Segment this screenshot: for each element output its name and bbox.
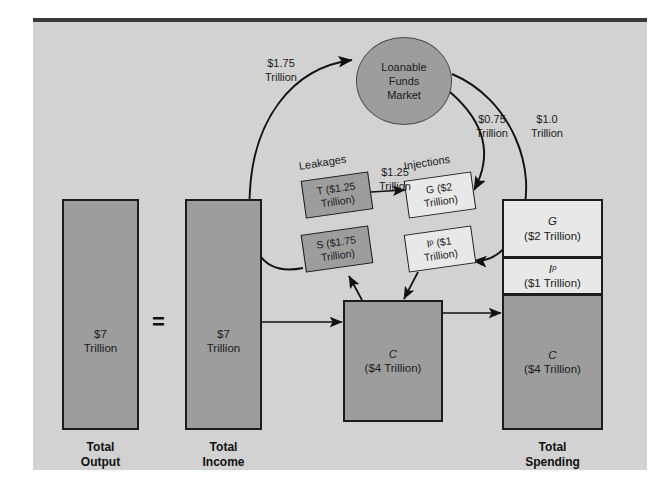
box-savings-label: S ($1.75 Trillion)	[316, 234, 359, 264]
label-taxes-to-government: $1.25 Trillion	[367, 166, 423, 194]
bar-spending-investment[interactable]: Iᵖ ($1 Trillion)	[502, 257, 603, 295]
total-output-caption-line1: Total	[62, 440, 139, 455]
arrow-investment-to-consumption	[404, 272, 418, 299]
total-income-caption-line1: Total	[185, 440, 262, 455]
lfm-inv-flow-line1: $1.0	[521, 113, 573, 127]
loanable-funds-market-node[interactable]: Loanable Funds Market	[356, 37, 452, 125]
total-output-caption-line2: Output	[62, 455, 139, 470]
bar-total-income[interactable]: $7 Trillion	[185, 199, 262, 430]
bar-spending-consumption-label: C ($4 Trillion)	[524, 348, 581, 377]
total-spending-caption-line1: Total	[502, 440, 603, 455]
box-investment-label: Iᵖ ($1 Trillion)	[421, 234, 458, 264]
total-income-value-line2: Trillion	[187, 341, 260, 355]
lfm-inv-flow-line2: Trillion	[521, 127, 573, 141]
savings-flow-line2: Trillion	[250, 71, 312, 85]
taxes-flow-line2: Trillion	[367, 180, 423, 194]
savings-flow-line1: $1.75	[250, 57, 312, 71]
lfm-line-3: Market	[381, 88, 426, 102]
equals-sign: =	[152, 309, 165, 335]
spending-government-value: ($2 Trillion)	[524, 229, 581, 243]
lfm-gov-flow-line2: Trillion	[464, 127, 520, 141]
bar-total-output[interactable]: $7 Trillion	[62, 199, 139, 430]
caption-total-spending: Total Spending	[502, 440, 603, 470]
spending-government-symbol: G	[524, 214, 581, 228]
arrow-consumption-to-savings	[349, 276, 362, 300]
label-savings-to-lfm: $1.75 Trillion	[250, 57, 312, 85]
taxes-flow-line1: $1.25	[367, 166, 423, 180]
diagram-stage: Loanable Funds Market $7 Trillion Total …	[0, 0, 665, 492]
lfm-line-2: Funds	[381, 74, 426, 88]
total-income-caption-line2: Income	[185, 455, 262, 470]
box-taxes-label: T ($1.25 Trillion)	[316, 180, 358, 210]
total-spending-caption-line2: Spending	[502, 455, 603, 470]
spending-consumption-symbol: C	[524, 348, 581, 362]
spending-investment-value: ($1 Trillion)	[524, 276, 581, 290]
total-income-value-line1: $7	[187, 327, 260, 341]
caption-total-income: Total Income	[185, 440, 262, 470]
label-lfm-to-investment: $1.0 Trillion	[521, 113, 573, 141]
lfm-gov-flow-line1: $0.75	[464, 113, 520, 127]
label-lfm-to-government: $0.75 Trillion	[464, 113, 520, 141]
total-output-value-line2: Trillion	[64, 341, 137, 355]
bar-consumption-center[interactable]: C ($4 Trillion)	[343, 300, 443, 422]
consumption-center-value: ($4 Trillion)	[365, 361, 422, 375]
spending-consumption-value: ($4 Trillion)	[524, 362, 581, 376]
total-output-value-line1: $7	[64, 327, 137, 341]
bar-spending-government-label: G ($2 Trillion)	[524, 214, 581, 243]
caption-total-output: Total Output	[62, 440, 139, 470]
bar-spending-government[interactable]: G ($2 Trillion)	[502, 199, 603, 258]
loanable-funds-market-label: Loanable Funds Market	[381, 60, 426, 103]
consumption-center-symbol: C	[365, 347, 422, 361]
bar-spending-investment-label: Iᵖ ($1 Trillion)	[524, 262, 581, 291]
diagram-page: Loanable Funds Market $7 Trillion Total …	[0, 0, 665, 492]
bar-consumption-center-label: C ($4 Trillion)	[365, 347, 422, 376]
bar-spending-consumption[interactable]: C ($4 Trillion)	[502, 294, 603, 430]
bar-total-output-value: $7 Trillion	[64, 327, 137, 356]
bar-total-income-value: $7 Trillion	[187, 327, 260, 356]
spending-investment-symbol: Iᵖ	[524, 262, 581, 276]
lfm-line-1: Loanable	[381, 60, 426, 74]
box-government-label: G ($2 Trillion)	[421, 180, 458, 210]
